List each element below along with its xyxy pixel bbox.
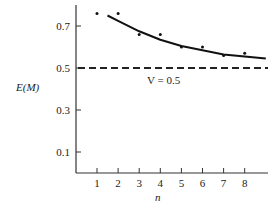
data-point	[96, 12, 99, 15]
x-ticks: 12345678	[94, 168, 248, 189]
x-tick-label: 1	[94, 177, 100, 189]
fitted-curve	[108, 16, 266, 59]
x-tick-label: 3	[136, 177, 142, 189]
reference-annotation: V = 0.5	[147, 74, 181, 86]
chart: 0.10.30.50.7 12345678 E(M) n V = 0.5	[0, 0, 278, 217]
data-point	[180, 46, 183, 49]
data-point	[201, 46, 204, 49]
data-point	[159, 33, 162, 36]
data-point	[138, 33, 141, 36]
y-tick-label: 0.5	[56, 62, 70, 74]
x-tick-label: 2	[115, 177, 121, 189]
x-axis-label: n	[155, 191, 161, 203]
data-points	[96, 12, 247, 57]
x-tick-label: 6	[200, 177, 206, 189]
x-tick-label: 7	[221, 177, 227, 189]
y-ticks: 0.10.30.50.7	[56, 20, 81, 158]
x-tick-label: 4	[158, 177, 164, 189]
y-tick-label: 0.7	[56, 20, 70, 32]
y-tick-label: 0.1	[56, 146, 70, 158]
data-point	[222, 54, 225, 57]
data-point	[243, 52, 246, 55]
x-tick-label: 5	[179, 177, 185, 189]
y-axis-label: E(M)	[15, 81, 40, 94]
x-tick-label: 8	[242, 177, 248, 189]
y-tick-label: 0.3	[56, 104, 70, 116]
data-point	[117, 12, 120, 15]
